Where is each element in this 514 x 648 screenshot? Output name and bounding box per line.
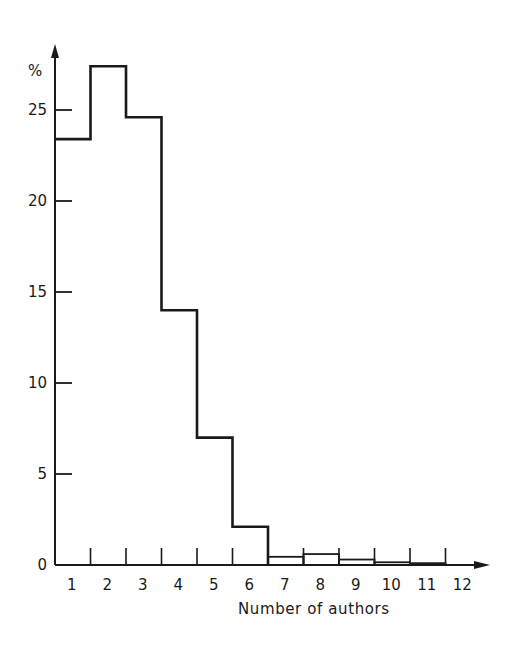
histogram-bar-10 <box>375 562 411 565</box>
y-tick-label: 0 <box>37 556 47 574</box>
x-axis-label: Number of authors <box>238 600 390 618</box>
x-tick-label: 9 <box>351 576 361 594</box>
histogram-bar-7 <box>268 557 304 565</box>
x-tick-label: 2 <box>102 576 112 594</box>
y-tick-label: 5 <box>37 465 47 483</box>
x-tick-label: 12 <box>453 576 472 594</box>
y-tick-label: 25 <box>28 101 47 119</box>
x-tick-label: 8 <box>315 576 325 594</box>
y-tick-label: 20 <box>28 192 47 210</box>
x-tick-label: 1 <box>67 576 77 594</box>
x-tick-label: 11 <box>417 576 436 594</box>
y-tick-label: 10 <box>28 374 47 392</box>
x-tick-label: 7 <box>280 576 290 594</box>
x-tick-label: 4 <box>173 576 183 594</box>
x-tick-label: 10 <box>382 576 401 594</box>
x-tick-label: 3 <box>138 576 148 594</box>
histogram-bar-8 <box>304 554 340 565</box>
y-tick-label: 15 <box>28 283 47 301</box>
x-tick-label: 5 <box>209 576 219 594</box>
histogram-bar-9 <box>339 560 375 565</box>
histogram-outline <box>55 66 268 565</box>
y-axis-label: % <box>28 62 42 80</box>
y-axis-arrow-icon <box>51 44 59 58</box>
histogram-chart: %0510152025123456789101112Number of auth… <box>0 0 514 648</box>
x-axis-arrow-icon <box>474 561 490 569</box>
x-tick-label: 6 <box>244 576 254 594</box>
